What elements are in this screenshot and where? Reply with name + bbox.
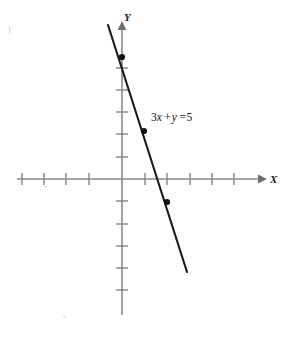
x-axis: X — [17, 173, 278, 185]
equation-equals-sign: = — [179, 111, 186, 123]
data-point — [119, 54, 125, 60]
data-point — [141, 128, 147, 134]
x-axis-arrowhead — [258, 175, 267, 184]
paper-speck — [63, 316, 66, 317]
paper-speck — [44, 186, 47, 187]
x-axis-label: X — [269, 173, 278, 185]
equation-variable-y: y — [171, 111, 178, 124]
equation-rhs: 5 — [186, 111, 192, 123]
equation-line — [108, 25, 187, 272]
y-axis-label: Y — [124, 11, 132, 23]
data-point — [164, 199, 170, 205]
equation-annotation: 3x+y=5 — [151, 111, 192, 124]
graph-figure: X Y — [0, 0, 288, 342]
equation-variable-x: x — [156, 111, 163, 123]
equation-text: 3x+y=5 — [151, 111, 192, 124]
paper-speck — [9, 26, 11, 33]
equation-plus-sign: + — [164, 111, 171, 123]
coordinate-plane-graph: X Y — [0, 0, 288, 342]
